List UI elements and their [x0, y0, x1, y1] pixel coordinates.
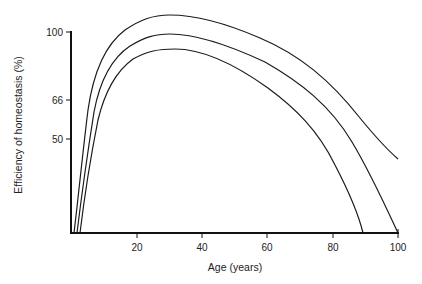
y-tick-label-50: 50: [52, 134, 64, 145]
y-tick-label-100: 100: [46, 27, 63, 38]
x-tick-label-20: 20: [131, 242, 143, 253]
x-tick-label-80: 80: [327, 242, 339, 253]
homeostasis-chart: 100 66 50 20 40 60 80 100 Age (years) Ef…: [0, 0, 422, 284]
y-tick-label-66: 66: [52, 95, 64, 106]
x-axis-label: Age (years): [208, 261, 262, 273]
middle-curve: [77, 34, 398, 233]
x-tick-label-100: 100: [390, 242, 407, 253]
x-tick-label-40: 40: [196, 242, 208, 253]
upper-curve: [74, 15, 398, 233]
y-axis-label: Efficiency of homeostasis (%): [12, 56, 24, 194]
x-tick-label-60: 60: [261, 242, 273, 253]
